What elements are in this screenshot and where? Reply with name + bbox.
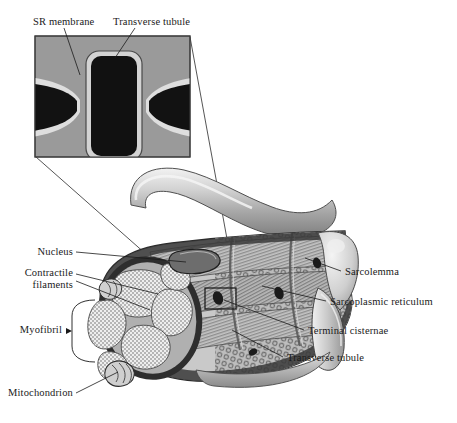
end-cap-highlight — [327, 239, 345, 253]
label-contractile-filaments: Contractile filaments — [0, 267, 73, 291]
label-sarcoplasmic-reticulum: Sarcoplasmic reticulum — [330, 296, 433, 308]
triad-detail-inset — [18, 28, 207, 161]
t-tubule-lumen — [91, 56, 137, 156]
mitochondrion — [105, 361, 134, 386]
figure-canvas — [0, 0, 457, 423]
label-transverse-tubule-inset: Transverse tubule — [113, 16, 190, 28]
label-sarcolemma: Sarcolemma — [345, 266, 399, 278]
muscle-fiber-figure — [0, 0, 457, 423]
label-myofibril: Myofibril — [0, 324, 62, 336]
label-mitochondrion: Mitochondrion — [0, 387, 73, 399]
label-transverse-tubule-fiber: Transverse tubule — [287, 352, 364, 364]
label-terminal-cisternae: Terminal cisternae — [308, 325, 388, 337]
label-nucleus: Nucleus — [0, 246, 73, 258]
label-sr-membrane: SR membrane — [33, 16, 94, 28]
